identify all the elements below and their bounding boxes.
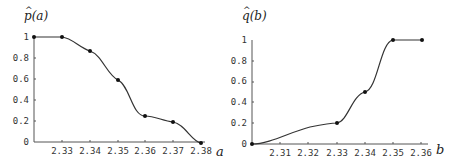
right-ytick-0: 0	[242, 139, 247, 149]
right-xtick-2.32: 2.32	[297, 148, 319, 158]
left-chart: p(a) ^ 0 0.2 0.4 0.6 0.8 1 2.33 2.34 2.3…	[13, 5, 224, 159]
left-x-label: a	[216, 144, 224, 159]
right-curve	[252, 40, 422, 144]
left-ytick-0.6: 0.6	[13, 74, 29, 84]
left-ytick-0.2: 0.2	[13, 116, 29, 126]
left-y-label-hat: ^	[25, 5, 33, 15]
right-ytick-1: 1	[242, 35, 247, 45]
right-ytick-0.8: 0.8	[231, 56, 247, 66]
right-markers	[250, 38, 424, 146]
left-markers	[32, 35, 203, 145]
figure: p(a) ^ 0 0.2 0.4 0.6 0.8 1 2.33 2.34 2.3…	[0, 0, 457, 166]
right-xtick-2.33: 2.33	[326, 148, 348, 158]
right-xtick-2.36: 2.36	[410, 148, 432, 158]
left-y-ticks: 0 0.2 0.4 0.6 0.8 1	[13, 32, 36, 147]
left-xtick-2.37: 2.37	[162, 146, 184, 156]
left-ytick-0: 0	[24, 137, 29, 147]
left-ytick-1: 1	[24, 32, 29, 42]
left-xtick-2.38: 2.38	[190, 146, 212, 156]
left-xtick-2.36: 2.36	[134, 146, 156, 156]
right-ytick-0.4: 0.4	[231, 97, 247, 107]
left-xtick-2.34: 2.34	[79, 146, 101, 156]
right-ytick-0.2: 0.2	[231, 118, 247, 128]
left-xtick-2.33: 2.33	[51, 146, 73, 156]
right-x-label: b	[436, 142, 444, 157]
right-ytick-0.6: 0.6	[231, 76, 247, 86]
right-xtick-2.35: 2.35	[382, 148, 404, 158]
left-curve	[34, 37, 201, 143]
right-xtick-2.31: 2.31	[269, 148, 291, 158]
left-ytick-0.4: 0.4	[13, 95, 29, 105]
right-xtick-2.34: 2.34	[354, 148, 376, 158]
right-chart: q(b) ^ 0 0.2 0.4 0.6 0.8 1 2.31 2.32 2.3…	[231, 5, 445, 158]
right-y-ticks: 0 0.2 0.4 0.6 0.8 1	[231, 35, 254, 149]
right-y-label-hat: ^	[243, 5, 251, 15]
left-ytick-0.8: 0.8	[13, 53, 29, 63]
left-xtick-2.35: 2.35	[107, 146, 129, 156]
